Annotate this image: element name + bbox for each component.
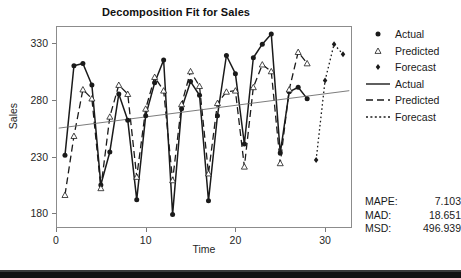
- data-point-predicted-23: [259, 62, 265, 67]
- plot-canvas: [56, 26, 352, 228]
- chart-page: Decomposition Fit for Sales 180230280330…: [0, 0, 461, 278]
- data-point-forecast-29: [314, 157, 319, 163]
- data-point-predicted-3: [80, 87, 86, 92]
- data-point-actual-11: [152, 80, 157, 85]
- accuracy-label: MSD:: [365, 222, 391, 236]
- y-tick-label-280: 280: [30, 94, 48, 106]
- legend-label: Predicted: [391, 94, 439, 106]
- data-point-actual-13: [170, 212, 175, 217]
- chart-legend: ActualPredictedForecastActualPredictedFo…: [365, 26, 461, 125]
- data-point-predicted-21: [241, 164, 247, 169]
- data-point-actual-12: [161, 58, 166, 63]
- legend-label: Actual: [391, 78, 424, 90]
- data-point-actual-17: [206, 198, 211, 203]
- data-point-forecast-30: [323, 77, 328, 83]
- data-point-predicted-19: [223, 89, 229, 94]
- data-point-actual-15: [188, 79, 193, 84]
- y-tick-label-230: 230: [30, 151, 48, 163]
- series-line-forecast: [316, 44, 343, 160]
- data-point-actual-7: [116, 92, 121, 97]
- legend-symbol-filled-circle-icon: [365, 26, 391, 42]
- x-tick-mark-10: [146, 228, 147, 232]
- data-point-actual-19: [224, 53, 229, 58]
- data-point-actual-18: [215, 113, 220, 118]
- bottom-bar: [0, 270, 461, 278]
- accuracy-value: 7.103: [435, 195, 461, 209]
- y-tick-mark-280: [52, 100, 56, 101]
- x-tick-mark-0: [56, 228, 57, 232]
- legend-item-actual-marker: Actual: [365, 26, 461, 43]
- data-point-predicted-26: [286, 87, 292, 92]
- data-point-actual-9: [134, 197, 139, 202]
- data-point-actual-8: [125, 118, 130, 123]
- legend-item-actual-line: Actual: [365, 76, 461, 93]
- data-point-predicted-27: [295, 49, 301, 54]
- data-point-forecast-32: [341, 51, 346, 57]
- y-tick-mark-180: [52, 213, 56, 214]
- data-point-actual-25: [278, 151, 283, 156]
- legend-symbol-solid-line-icon: [365, 76, 391, 92]
- data-point-predicted-15: [188, 68, 194, 73]
- x-tick-mark-20: [235, 228, 236, 232]
- accuracy-value: 496.939: [423, 222, 461, 236]
- legend-marker-open-triangle: [375, 48, 381, 53]
- y-tick-label-330: 330: [30, 37, 48, 49]
- legend-label: Forecast: [391, 61, 436, 73]
- data-point-predicted-1: [62, 192, 68, 197]
- chart-title: Decomposition Fit for Sales: [0, 6, 352, 18]
- legend-item-predicted-line: Predicted: [365, 92, 461, 109]
- legend-marker-filled-circle: [376, 32, 381, 37]
- data-point-actual-20: [233, 71, 238, 76]
- legend-label: Actual: [391, 28, 424, 40]
- legend-symbol-dotted-line-icon: [365, 109, 391, 125]
- accuracy-measures: MAPE:7.103MAD:18.651MSD:496.939: [365, 195, 461, 236]
- legend-item-forecast-marker: Forecast: [365, 59, 461, 76]
- y-tick-mark-230: [52, 157, 56, 158]
- data-point-predicted-6: [107, 114, 113, 119]
- y-tick-mark-330: [52, 43, 56, 44]
- data-point-actual-4: [89, 83, 94, 88]
- legend-label: Predicted: [391, 45, 439, 57]
- legend-label: Forecast: [391, 111, 436, 123]
- accuracy-row: MAPE:7.103: [365, 195, 461, 209]
- data-point-predicted-2: [71, 133, 77, 138]
- data-point-actual-24: [269, 31, 274, 36]
- bottom-bar-highlight: [0, 270, 461, 272]
- series-line-trend: [59, 91, 350, 128]
- accuracy-row: MAD:18.651: [365, 209, 461, 223]
- x-axis-title: Time: [56, 243, 352, 255]
- data-point-actual-16: [197, 93, 202, 98]
- data-point-actual-1: [62, 153, 67, 158]
- data-point-actual-22: [251, 55, 256, 60]
- data-point-actual-28: [305, 96, 310, 101]
- data-point-actual-10: [143, 113, 148, 118]
- legend-symbol-open-triangle-icon: [365, 43, 391, 59]
- accuracy-label: MAPE:: [365, 195, 398, 209]
- data-point-predicted-7: [116, 82, 122, 87]
- data-point-actual-2: [71, 63, 76, 68]
- data-point-actual-27: [296, 85, 301, 90]
- data-point-actual-21: [242, 142, 247, 147]
- data-point-predicted-28: [304, 60, 310, 65]
- data-point-actual-23: [260, 42, 265, 47]
- plot-area: [56, 26, 352, 228]
- y-axis-title: Sales: [7, 86, 19, 146]
- x-tick-mark-30: [325, 228, 326, 232]
- data-point-actual-6: [107, 149, 112, 154]
- legend-symbol-filled-diamond-icon: [365, 59, 391, 75]
- accuracy-value: 18.651: [429, 209, 461, 223]
- legend-item-predicted-marker: Predicted: [365, 43, 461, 60]
- legend-symbol-dashed-line-icon: [365, 92, 391, 108]
- legend-marker-filled-diamond: [376, 64, 381, 70]
- data-point-predicted-25: [277, 160, 283, 165]
- accuracy-row: MSD:496.939: [365, 222, 461, 236]
- y-tick-label-180: 180: [30, 207, 48, 219]
- data-point-actual-3: [80, 61, 85, 66]
- data-point-predicted-16: [197, 83, 203, 88]
- data-point-forecast-31: [332, 41, 337, 47]
- legend-item-forecast-line: Forecast: [365, 109, 461, 126]
- accuracy-label: MAD:: [365, 209, 391, 223]
